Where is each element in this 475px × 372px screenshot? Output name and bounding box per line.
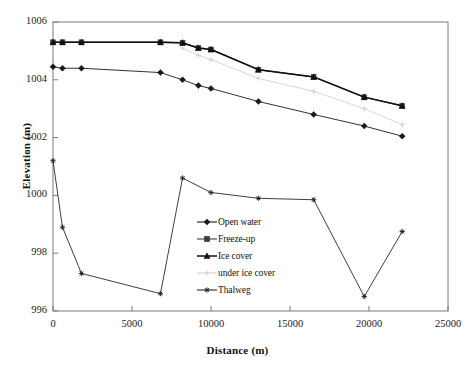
legend-label: Open water [218,217,261,227]
y-axis-tick-label: 996 [7,304,47,315]
chart-legend: Open water Freeze-up Ice cover under ice… [196,214,316,299]
legend-item-ice-cover: Ice cover [196,248,316,264]
series-ice-cover [50,39,405,108]
series-under-ice-cover [180,45,405,127]
legend-marker-cross-icon [196,266,218,280]
x-axis-tick-label: 25000 [418,318,475,329]
legend-label: Freeze-up [218,234,255,244]
legend-label: Thalweg [218,285,251,295]
series-line [183,48,403,125]
legend-item-open-water: Open water [196,214,316,230]
legend-marker-triangle-icon [196,249,218,263]
series-line [53,42,402,106]
chart-figure: Elevation (m) Distance (m) 9969981000100… [0,0,475,372]
series-freeze-up [51,40,405,108]
plot-area [0,0,475,372]
legend-label: Ice cover [218,251,252,261]
legend-marker-star-icon [196,283,218,297]
x-axis-tick-label: 5000 [102,318,162,329]
x-axis-tick-label: 20000 [339,318,399,329]
y-axis-tick-label: 1000 [7,188,47,199]
legend-label: under ice cover [218,268,275,278]
legend-marker-square-icon [196,232,218,246]
x-axis-tick-label: 0 [23,318,83,329]
y-axis-tick-label: 1002 [7,131,47,142]
legend-item-under-ice-cover: under ice cover [196,265,316,281]
x-axis-tick-label: 15000 [260,318,320,329]
series-open-water [50,64,405,139]
y-axis-tick-label: 1004 [7,73,47,84]
legend-item-thalweg: Thalweg [196,282,316,298]
series-line [53,42,402,106]
legend-marker-diamond-icon [196,215,218,229]
y-axis-tick-label: 1006 [7,15,47,26]
x-axis-tick-label: 10000 [181,318,241,329]
series-line [53,67,402,136]
x-axis-title: Distance (m) [0,344,475,356]
legend-item-freeze-up: Freeze-up [196,231,316,247]
y-axis-tick-label: 998 [7,246,47,257]
